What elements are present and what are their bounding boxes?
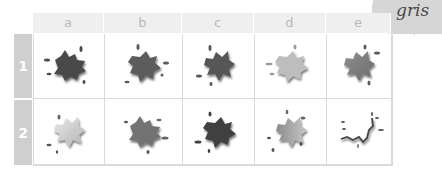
column-header-e: e	[326, 13, 391, 33]
ink-splat-icon	[39, 41, 99, 91]
cell-2c[interactable]	[183, 99, 255, 165]
cell-2a[interactable]	[34, 99, 105, 165]
cell-1c[interactable]	[183, 34, 255, 99]
cell-2b[interactable]	[105, 99, 183, 165]
ink-splat-icon	[39, 107, 99, 157]
cell-2d[interactable]	[255, 99, 327, 165]
cell-1e[interactable]	[327, 34, 392, 99]
row-label-2: 2	[14, 100, 32, 165]
column-header-d: d	[254, 13, 326, 33]
ink-splat-icon	[189, 107, 249, 157]
cell-1b[interactable]	[105, 34, 183, 99]
ink-splat-icon	[329, 41, 389, 91]
column-header-row: a b c d e	[33, 13, 391, 33]
ink-splat-icon	[114, 41, 174, 91]
column-header-c: c	[182, 13, 254, 33]
row-label-1: 1	[14, 34, 32, 98]
column-header-a: a	[33, 13, 104, 33]
cell-1a[interactable]	[34, 34, 105, 99]
ink-splat-icon	[114, 107, 174, 157]
gris-tag-tail	[405, 26, 415, 36]
column-header-b: b	[104, 13, 182, 33]
cell-1d[interactable]	[255, 34, 327, 99]
splat-grid	[33, 34, 393, 166]
ink-splat-icon	[189, 41, 249, 91]
cell-2e[interactable]	[327, 99, 392, 165]
ink-splat-icon	[261, 41, 321, 91]
ink-splat-icon	[261, 107, 321, 157]
ink-splat-outline-icon	[329, 107, 389, 157]
gris-tag-label: gris	[396, 0, 429, 20]
